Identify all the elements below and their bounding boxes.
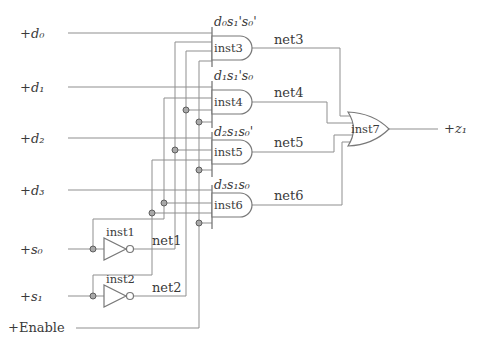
wire-enable-bus [76, 61, 212, 328]
junction-dot-s0-inst6 [161, 200, 167, 206]
junction-dot-s1-inst6 [149, 210, 155, 216]
inverter-inst2-triangle [104, 285, 126, 307]
junction-dot-enable-inst4 [196, 119, 202, 125]
input-label-d2: +d₂ [20, 131, 44, 146]
labels: +d₀ +d₁ +d₂ +d₃ +s₀ +s₁ +Enable +z₁ d₀s₁… [8, 14, 467, 335]
net-label-net2: net2 [152, 280, 182, 295]
junction-dot-enable-inst5 [196, 167, 202, 173]
gate-name-inst6: inst6 [214, 198, 243, 212]
inverter-inst2-bubble [127, 293, 134, 300]
gate-name-inst1: inst1 [106, 225, 135, 239]
net-label-net5: net5 [274, 135, 304, 150]
input-label-d3: +d₃ [20, 183, 44, 198]
junction-dot-net2-inst4 [183, 107, 189, 113]
gate-name-inst2: inst2 [106, 272, 135, 286]
gate-name-inst3: inst3 [214, 41, 243, 55]
gate-name-inst4: inst4 [214, 95, 243, 109]
inverter-inst1-triangle [104, 238, 126, 260]
inverter-inst1 [104, 238, 134, 260]
inverter-inst1-bubble [127, 246, 134, 253]
gate-name-inst5: inst5 [214, 145, 243, 159]
inverter-inst2 [104, 285, 134, 307]
gate-name-inst7: inst7 [351, 122, 380, 136]
expr-label-inst5: d₂s₁s₀' [214, 124, 253, 139]
wire-net1-bus [134, 42, 212, 249]
junction-dot-net1-inst5 [172, 147, 178, 153]
expr-label-inst6: d₃s₁s₀ [214, 177, 250, 192]
input-label-d1: +d₁ [20, 80, 44, 95]
output-label-z1: +z₁ [444, 121, 467, 136]
expr-label-inst3: d₀s₁'s₀' [214, 14, 257, 29]
wire-net2-bus [134, 51, 212, 296]
input-label-s0: +s₀ [20, 242, 44, 257]
net-label-net3: net3 [274, 32, 304, 47]
input-label-enable: +Enable [8, 320, 65, 335]
input-label-s1: +s₁ [20, 289, 43, 304]
junction-dot-s1-tap [90, 293, 96, 299]
expr-label-inst4: d₁s₁'s₀ [214, 68, 253, 83]
junction-dot-s0-tap [90, 246, 96, 252]
wire-net4 [252, 102, 354, 123]
logic-diagram-canvas: +d₀ +d₁ +d₂ +d₃ +s₀ +s₁ +Enable +z₁ d₀s₁… [0, 0, 483, 350]
net-label-net6: net6 [274, 188, 304, 203]
wire-net3 [252, 48, 354, 116]
input-label-d0: +d₀ [20, 26, 45, 41]
mux-logic-diagram: +d₀ +d₁ +d₂ +d₃ +s₀ +s₁ +Enable +z₁ d₀s₁… [0, 0, 483, 350]
net-label-net1: net1 [152, 233, 182, 248]
net-label-net4: net4 [274, 85, 304, 100]
junction-dot-enable-inst6 [196, 220, 202, 226]
